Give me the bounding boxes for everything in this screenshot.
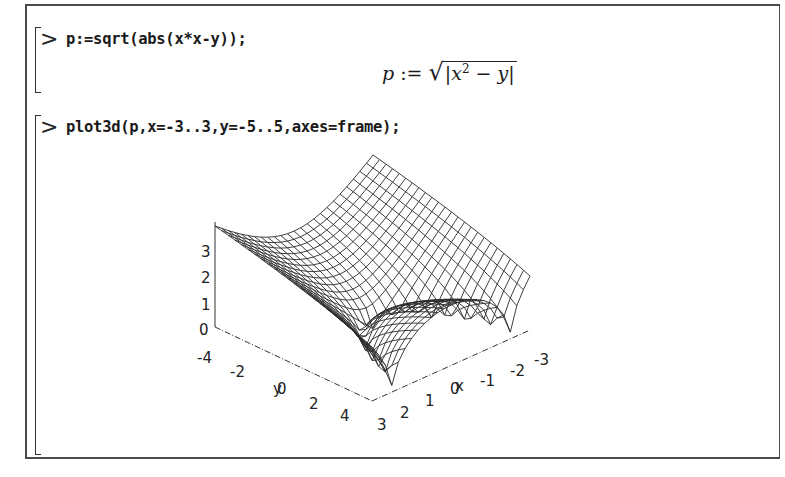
z-ticks: 0 1 2 3: [199, 243, 211, 339]
plot3d-output[interactable]: 0 1 2 3 -4 -2 0 y 2 4 3 2 1 0 x -1 -2 -3: [0, 0, 785, 477]
x-tick-neg1: -1: [480, 372, 495, 390]
z-tick-3: 3: [201, 243, 211, 261]
y-ticks: -4 -2 0 y 2 4: [197, 349, 350, 425]
x-tick-neg2: -2: [510, 362, 525, 380]
x-tick-1: 1: [425, 392, 435, 410]
z-tick-2: 2: [201, 269, 211, 287]
y-tick-neg2: -2: [230, 363, 245, 381]
y-tick-4: 4: [340, 407, 350, 425]
x-tick-2: 2: [400, 404, 410, 422]
x-tick-3: 3: [377, 416, 387, 434]
z-tick-0: 0: [199, 321, 209, 339]
x-tick-neg3: -3: [534, 351, 549, 369]
x-ticks: 3 2 1 0 x -1 -2 -3: [377, 351, 549, 434]
x-axis-label: x: [455, 377, 464, 395]
z-tick-1: 1: [201, 296, 211, 314]
y-tick-neg4: -4: [197, 349, 212, 367]
y-axis-label: y: [273, 380, 282, 398]
y-tick-2: 2: [309, 395, 319, 413]
